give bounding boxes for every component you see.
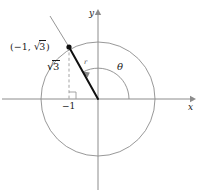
x-tick-label-negative-one: −1: [62, 102, 75, 111]
radius-label: r: [84, 59, 87, 66]
x-axis-label: x: [188, 103, 193, 112]
terminal-ray-extension-line: [50, 16, 69, 47]
trig-diagram-figure: y x θ r (−1, √3) √3 −1: [0, 0, 200, 196]
right-angle-marker-icon: [69, 92, 76, 99]
point-coordinate-label: (−1, √3): [10, 41, 50, 52]
theta-label: θ: [117, 62, 123, 72]
leg-radical: √3: [47, 62, 60, 73]
coord-close-paren: ): [46, 41, 50, 52]
coord-radical-arg: 3: [39, 40, 46, 52]
diagram-canvas: [0, 0, 200, 196]
radius-segment: [69, 47, 98, 99]
coord-x-value: −1: [14, 41, 28, 52]
coord-y-radical: √3: [34, 41, 46, 52]
vertical-leg-label: √3: [47, 62, 60, 73]
terminal-point-marker: [66, 44, 71, 49]
y-axis-label: y: [89, 9, 94, 18]
y-axis-arrowhead-icon: [95, 9, 101, 15]
leg-radical-arg: 3: [52, 60, 59, 72]
